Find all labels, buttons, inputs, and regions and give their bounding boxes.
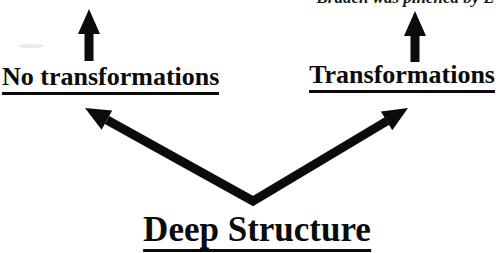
branch-arrows-icon — [85, 108, 408, 201]
left-branch-label: No transformations — [2, 64, 219, 95]
diagram-canvas: Braden was pinched by L No transformatio… — [0, 0, 496, 253]
right-branch-label: Transformations — [309, 62, 495, 93]
up-arrow-icon — [404, 11, 426, 62]
deep-structure-label: Deep Structure — [143, 212, 371, 252]
up-arrow-icon — [78, 9, 100, 61]
